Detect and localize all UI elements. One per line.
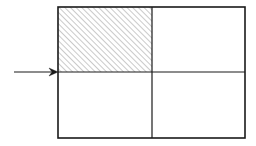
quadrant-top-left bbox=[58, 7, 152, 72]
quadrant-top-left-hatch-fill bbox=[58, 7, 152, 72]
quadrant-diagram bbox=[0, 0, 256, 146]
diagram-stage bbox=[0, 0, 256, 146]
